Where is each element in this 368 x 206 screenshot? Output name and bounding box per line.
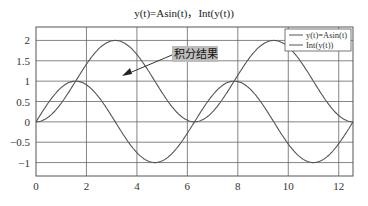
svg-text:6: 6 — [185, 180, 191, 192]
svg-text:0: 0 — [25, 116, 31, 128]
legend-item-sin: y(t)=Asin(t) — [306, 30, 347, 40]
svg-text:12: 12 — [333, 180, 344, 192]
svg-text:1.5: 1.5 — [16, 55, 30, 67]
svg-text:2: 2 — [84, 180, 90, 192]
svg-text:2: 2 — [25, 34, 31, 46]
svg-text:−0.5: −0.5 — [10, 136, 30, 148]
svg-text:0.5: 0.5 — [16, 96, 30, 108]
svg-text:1: 1 — [25, 75, 31, 87]
legend: y(t)=Asin(t) Int(y(t)) — [285, 29, 351, 51]
svg-text:8: 8 — [235, 180, 241, 192]
svg-text:4: 4 — [134, 180, 140, 192]
svg-text:0: 0 — [33, 180, 39, 192]
annotation-label: 积分结果 — [174, 48, 218, 61]
svg-text:10: 10 — [283, 180, 295, 192]
legend-item-int: Int(y(t)) — [306, 40, 334, 50]
arrow-icon — [122, 68, 132, 76]
svg-text:−1: −1 — [18, 157, 30, 169]
line-chart: 024681012−1−0.500.511.52 y(t)=Asin(t) In… — [0, 0, 368, 206]
